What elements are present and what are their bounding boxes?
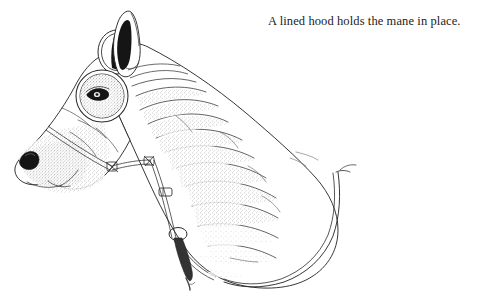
horse-hood-illustration	[0, 0, 483, 300]
illustration-svg	[0, 0, 483, 300]
caption-text: A lined hood holds the mane in place.	[268, 14, 480, 29]
ear	[111, 11, 140, 77]
illustration-page: A lined hood holds the mane in place.	[0, 0, 483, 300]
